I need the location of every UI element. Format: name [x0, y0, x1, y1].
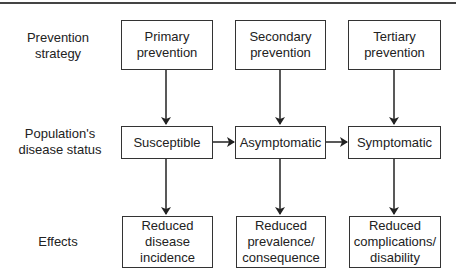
arrows-layer: [0, 0, 456, 279]
